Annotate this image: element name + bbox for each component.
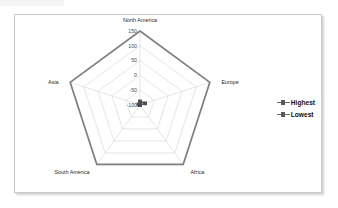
legend-item-highest[interactable]: Highest bbox=[277, 99, 315, 106]
series-point-marker bbox=[137, 103, 141, 107]
clipped-toolbar-artifact bbox=[0, 0, 64, 7]
axis-category-label: South America bbox=[54, 169, 89, 175]
axis-category-label: Europe bbox=[221, 79, 238, 85]
radial-tick-label: 50 bbox=[131, 57, 137, 63]
axis-category-label: Asia bbox=[48, 79, 59, 85]
radar-plot: 150100500-50-100North AmericaEuropeAfric… bbox=[15, 15, 321, 192]
radial-tick-label: 100 bbox=[128, 43, 137, 49]
line-square-marker-icon bbox=[277, 111, 290, 118]
line-square-marker-icon bbox=[277, 99, 290, 106]
radial-tick-label: -100 bbox=[127, 102, 137, 108]
series-point-marker bbox=[143, 101, 147, 105]
axis-category-label: Africa bbox=[191, 169, 205, 175]
radial-tick-label: 0 bbox=[134, 72, 137, 78]
legend-label-highest: Highest bbox=[291, 99, 315, 106]
radial-tick-label: -50 bbox=[130, 87, 138, 93]
radar-chart-frame: 150100500-50-100North AmericaEuropeAfric… bbox=[14, 14, 322, 193]
axis-category-label: North America bbox=[123, 17, 157, 23]
legend-item-lowest[interactable]: Lowest bbox=[277, 111, 315, 118]
radial-tick-label: 150 bbox=[128, 28, 137, 34]
chart-legend: Highest Lowest bbox=[277, 99, 315, 118]
legend-label-lowest: Lowest bbox=[291, 111, 314, 118]
